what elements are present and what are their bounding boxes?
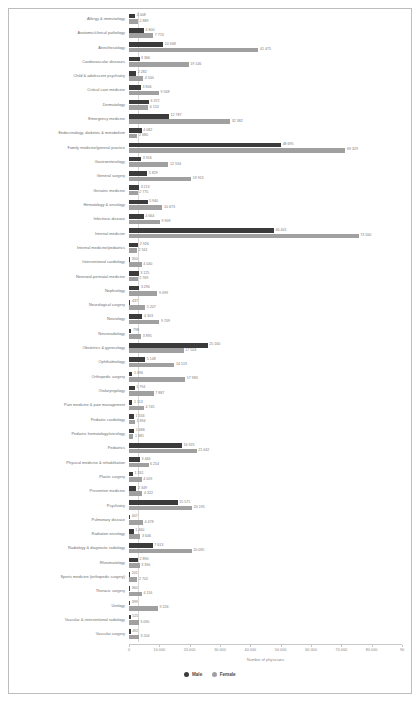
- bar-male[interactable]: [129, 85, 141, 90]
- bar-female-line: 41 475: [129, 48, 411, 53]
- bar-female[interactable]: [129, 62, 189, 67]
- bar-female[interactable]: [129, 377, 185, 382]
- bar-value-label: 48 695: [281, 143, 294, 147]
- bar-female[interactable]: [129, 363, 174, 368]
- bar-female[interactable]: [129, 19, 138, 24]
- bar-female[interactable]: [129, 220, 160, 225]
- bar-female[interactable]: [129, 291, 157, 296]
- bar-female[interactable]: [129, 592, 142, 597]
- bar-row: Internal medicine/pediatrics2 9262 561: [9, 241, 411, 255]
- bar-male[interactable]: [129, 443, 182, 448]
- bar-female[interactable]: [129, 463, 149, 468]
- legend-item-male[interactable]: Male: [184, 672, 202, 677]
- category-label: Obstetrics & gynecology: [9, 346, 129, 350]
- bar-value-label: 6 153: [148, 106, 159, 110]
- bar-male[interactable]: [129, 271, 139, 276]
- bar-male[interactable]: [129, 357, 145, 362]
- bar-male[interactable]: [129, 128, 142, 133]
- bar-female[interactable]: [129, 477, 142, 482]
- bar-male[interactable]: [129, 314, 142, 319]
- bar-female[interactable]: [129, 177, 191, 182]
- bar-value-label: 21 642: [197, 449, 210, 453]
- bar-female[interactable]: [129, 205, 162, 210]
- bar-female[interactable]: [129, 406, 144, 411]
- bar-male[interactable]: [129, 100, 149, 105]
- bar-male[interactable]: [129, 214, 144, 219]
- bar-female-line: 12 594: [129, 162, 411, 167]
- bar-female[interactable]: [129, 119, 230, 124]
- bar-pair: 4375 207: [129, 298, 411, 312]
- bar-female[interactable]: [129, 148, 345, 153]
- bar-male[interactable]: [129, 228, 274, 233]
- bar-male[interactable]: [129, 71, 136, 76]
- bar-female[interactable]: [129, 491, 142, 496]
- bar-female[interactable]: [129, 334, 141, 339]
- bar-female[interactable]: [129, 105, 148, 110]
- bar-male-line: 1 460: [129, 529, 411, 534]
- bar-male-line: 12 787: [129, 114, 411, 119]
- bar-male[interactable]: [129, 185, 139, 190]
- bar-female[interactable]: [129, 620, 139, 625]
- bar-female[interactable]: [129, 449, 197, 454]
- bar-pair: 4923 204: [129, 627, 411, 641]
- bar-female[interactable]: [129, 348, 184, 353]
- category-label: Pediatrics: [9, 446, 129, 450]
- bar-male-line: 1 794: [129, 386, 411, 391]
- bar-female[interactable]: [129, 305, 145, 310]
- bar-female[interactable]: [129, 635, 139, 640]
- bar-male[interactable]: [129, 28, 144, 33]
- bar-male[interactable]: [129, 171, 147, 176]
- bar-female[interactable]: [129, 48, 258, 53]
- bar-female[interactable]: [129, 549, 192, 554]
- category-label: Rheumatology: [9, 561, 129, 565]
- bar-male[interactable]: [129, 57, 140, 62]
- category-label: Pediatric hematology/oncology: [9, 432, 129, 436]
- bar-female[interactable]: [129, 534, 140, 539]
- bar-female[interactable]: [129, 277, 138, 282]
- bar-pair: 4074 478: [129, 513, 411, 527]
- bar-female[interactable]: [129, 91, 159, 96]
- bar-male[interactable]: [129, 286, 139, 291]
- bar-female-line: 6 254: [129, 463, 411, 468]
- x-tick-mark: [372, 645, 373, 647]
- bar-male[interactable]: [129, 157, 141, 162]
- legend-item-female[interactable]: Female: [212, 672, 235, 677]
- bar-male[interactable]: [129, 558, 138, 563]
- bar-pair: 3 91612 594: [129, 155, 411, 169]
- bar-male-line: 3 125: [129, 271, 411, 276]
- bar-female[interactable]: [129, 162, 168, 167]
- bar-male[interactable]: [129, 42, 163, 47]
- bar-female[interactable]: [129, 563, 140, 568]
- bar-female[interactable]: [129, 33, 153, 38]
- bar-male[interactable]: [129, 243, 138, 248]
- bar-value-label: 1 096: [132, 372, 143, 376]
- bar-male[interactable]: [129, 343, 208, 348]
- bar-male[interactable]: [129, 486, 136, 491]
- bar-female[interactable]: [129, 262, 142, 267]
- bar-female[interactable]: [129, 134, 137, 139]
- bar-female[interactable]: [129, 520, 143, 525]
- bar-row: Sports medicine (orthopedic surgery)2012…: [9, 570, 411, 584]
- bar-male[interactable]: [129, 143, 281, 148]
- bar-value-label: 1 460: [134, 529, 145, 533]
- bar-female[interactable]: [129, 191, 138, 196]
- bar-female[interactable]: [129, 506, 192, 511]
- bar-female[interactable]: [129, 76, 143, 81]
- bar-female[interactable]: [129, 606, 158, 611]
- bar-male[interactable]: [129, 200, 148, 205]
- bar-male[interactable]: [129, 543, 153, 548]
- bar-female[interactable]: [129, 234, 359, 239]
- bar-male[interactable]: [129, 457, 140, 462]
- bar-female[interactable]: [129, 320, 159, 325]
- category-label: Infectious disease: [9, 217, 129, 221]
- bar-male[interactable]: [129, 500, 178, 505]
- bar-male-line: 1 096: [129, 372, 411, 377]
- bar-male[interactable]: [129, 114, 169, 119]
- bar-value-label: 20 195: [192, 506, 205, 510]
- category-label: Dermatology: [9, 103, 129, 107]
- bar-female[interactable]: [129, 248, 137, 253]
- bar-female[interactable]: [129, 577, 137, 582]
- bar-pair: 1 7947 887: [129, 384, 411, 398]
- bar-female[interactable]: [129, 391, 154, 396]
- x-tick-label: 10 000: [154, 648, 166, 652]
